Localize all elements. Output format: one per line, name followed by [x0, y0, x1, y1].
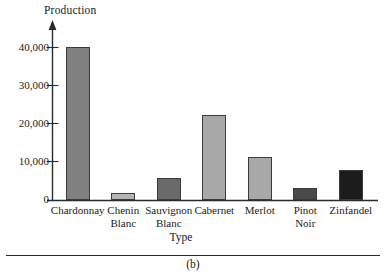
bar-sauvignon-blanc [157, 178, 181, 200]
bar-cabernet [202, 115, 226, 200]
bar-chenin-blanc [111, 193, 135, 200]
bar-chardonnay [66, 47, 90, 200]
bar-merlot [248, 157, 272, 200]
figure-panel: Production 40,000 30,000 20,000 10,000 0… [0, 0, 386, 279]
x-axis-title: Type [0, 231, 386, 243]
x-tick-label: Zinfandel [322, 204, 380, 217]
caption-divider [6, 255, 380, 256]
bar-zinfandel [339, 170, 363, 200]
bar-pinot-noir [293, 188, 317, 200]
x-axis-title-text: Type [170, 231, 193, 243]
figure-caption: (b) [0, 258, 386, 270]
